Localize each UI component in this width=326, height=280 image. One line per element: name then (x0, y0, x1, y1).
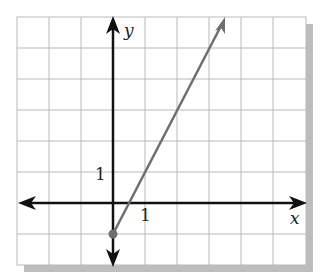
start-point-dot (109, 230, 118, 239)
x-axis-label: x (290, 208, 300, 228)
coordinate-plane: y x 1 1 (0, 0, 326, 280)
y-tick-label: 1 (95, 164, 106, 184)
shadow-bottom (24, 265, 313, 272)
shadow-right (306, 24, 313, 272)
y-axis-label: y (123, 20, 134, 40)
x-tick-label: 1 (140, 205, 151, 225)
